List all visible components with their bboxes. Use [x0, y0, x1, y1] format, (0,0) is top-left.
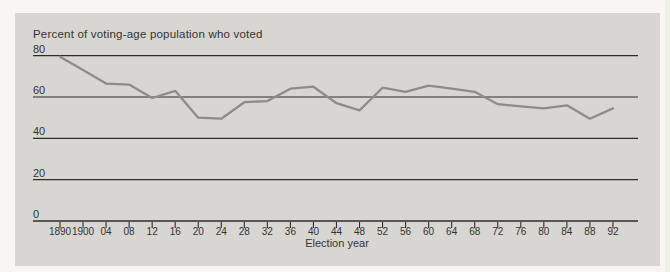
x-tick-label: 1890	[49, 226, 72, 237]
x-tick-label: 24	[216, 226, 228, 237]
x-tick-label: 36	[285, 226, 297, 237]
y-tick-label: 20	[33, 167, 45, 179]
x-tick-label: 16	[170, 226, 182, 237]
x-tick-label: 72	[492, 226, 504, 237]
x-tick-label: 12	[147, 226, 159, 237]
x-tick-label: 80	[538, 226, 550, 237]
x-tick-label: 20	[193, 226, 205, 237]
x-tick-label: 48	[354, 226, 366, 237]
x-tick-label: 92	[607, 226, 619, 237]
y-tick-label: 40	[33, 125, 45, 137]
x-tick-label: 76	[515, 226, 527, 237]
chart-panel: Percent of voting-age population who vot…	[15, 13, 660, 266]
page-background: Percent of voting-age population who vot…	[0, 0, 670, 272]
x-tick-label: 32	[262, 226, 274, 237]
line-chart: 0204060801890190004081216202428323640444…	[15, 13, 660, 266]
x-tick-label: 44	[331, 226, 343, 237]
x-tick-label: 60	[423, 226, 435, 237]
y-tick-label: 0	[33, 208, 39, 220]
x-tick-label: 52	[377, 226, 389, 237]
x-tick-label: 88	[584, 226, 596, 237]
y-tick-label: 80	[33, 43, 45, 55]
page-edge-strip	[665, 0, 670, 272]
x-axis-title: Election year	[305, 237, 369, 249]
x-tick-label: 08	[124, 226, 136, 237]
y-tick-label: 60	[33, 84, 45, 96]
x-tick-label: 04	[101, 226, 113, 237]
x-tick-label: 1900	[72, 226, 95, 237]
x-tick-label: 84	[561, 226, 573, 237]
x-tick-label: 64	[446, 226, 458, 237]
x-tick-label: 68	[469, 226, 481, 237]
data-line	[60, 57, 613, 119]
x-tick-label: 56	[400, 226, 412, 237]
x-tick-label: 28	[239, 226, 251, 237]
x-tick-label: 40	[308, 226, 320, 237]
